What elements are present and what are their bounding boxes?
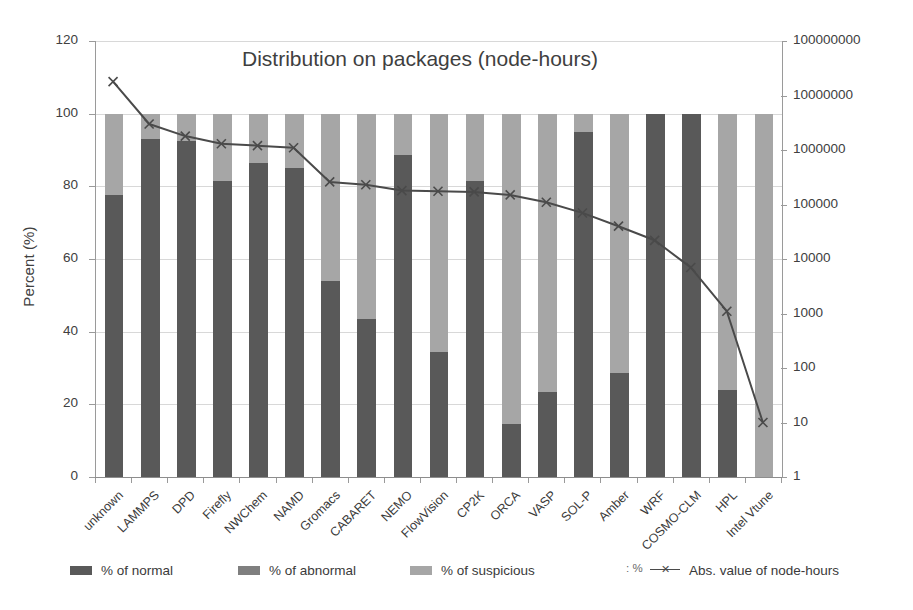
bar-segment[interactable]	[646, 114, 665, 477]
bar-segment[interactable]	[105, 114, 124, 196]
bar-segment[interactable]	[574, 132, 593, 477]
bar-segment[interactable]	[249, 114, 268, 163]
bar-segment[interactable]	[394, 155, 413, 477]
bar-segment[interactable]	[357, 319, 376, 477]
y-tick-label-left: 120	[28, 32, 78, 47]
bar-segment[interactable]	[755, 114, 774, 477]
y-tick-label-right: 100	[793, 359, 883, 374]
bar-segment[interactable]	[574, 114, 593, 132]
legend-label: Abs. value of node-hours	[689, 563, 839, 578]
legend-label: % of suspicious	[441, 563, 535, 578]
bar-segment[interactable]	[538, 392, 557, 477]
y-tick-label-right: 10000000	[793, 87, 883, 102]
bar-segment[interactable]	[177, 141, 196, 477]
bar-segment[interactable]	[357, 114, 376, 319]
bar-segment[interactable]	[610, 373, 629, 477]
y-tick-label-left: 80	[28, 177, 78, 192]
y-tick-label-right: 1000	[793, 305, 883, 320]
y-tick-label-right: 10000	[793, 250, 883, 265]
bar-group[interactable]	[394, 41, 413, 477]
bar-segment[interactable]	[718, 390, 737, 477]
bar-segment[interactable]	[466, 114, 485, 181]
chart-container: Distribution on packages (node-hours) Pe…	[0, 0, 913, 610]
legend-stray-label: : %	[626, 562, 643, 574]
bar-group[interactable]	[321, 41, 340, 477]
bar-group[interactable]	[718, 41, 737, 477]
legend-swatch	[70, 566, 92, 575]
legend-item[interactable]: ✕Abs. value of node-hours	[650, 560, 839, 580]
legend-swatch	[410, 566, 432, 575]
bar-segment[interactable]	[466, 181, 485, 477]
bar-segment[interactable]	[610, 114, 629, 374]
plot-inner	[96, 41, 782, 477]
legend-item[interactable]: % of suspicious	[410, 560, 535, 580]
bar-group[interactable]	[646, 41, 665, 477]
legend-item[interactable]: % of normal	[70, 560, 173, 580]
y-tick-label-right: 1	[793, 468, 883, 483]
bar-group[interactable]	[285, 41, 304, 477]
bar-segment[interactable]	[249, 163, 268, 477]
bar-group[interactable]	[502, 41, 521, 477]
bar-group[interactable]	[538, 41, 557, 477]
bar-segment[interactable]	[394, 114, 413, 156]
y-tick-label-right: 100000000	[793, 32, 883, 47]
y-tick-label-left: 60	[28, 250, 78, 265]
bar-segment[interactable]	[105, 195, 124, 477]
legend-label: % of abnormal	[269, 563, 356, 578]
bar-segment[interactable]	[321, 281, 340, 477]
y-tick-label-right: 100000	[793, 196, 883, 211]
bar-segment[interactable]	[285, 114, 304, 169]
bar-segment[interactable]	[682, 114, 701, 477]
bar-segment[interactable]	[141, 114, 160, 139]
bar-segment[interactable]	[502, 424, 521, 477]
legend-swatch	[238, 566, 260, 575]
y-tick-label-right: 1000000	[793, 141, 883, 156]
x-axis-line	[95, 477, 782, 478]
bar-group[interactable]	[466, 41, 485, 477]
legend-item[interactable]: % of abnormal	[238, 560, 356, 580]
bar-segment[interactable]	[538, 114, 557, 392]
bar-group[interactable]	[141, 41, 160, 477]
y-tick-label-left: 100	[28, 105, 78, 120]
y-tick-label-left: 20	[28, 395, 78, 410]
legend-label: % of normal	[101, 563, 173, 578]
bar-group[interactable]	[213, 41, 232, 477]
bar-segment[interactable]	[430, 114, 449, 352]
bar-group[interactable]	[574, 41, 593, 477]
bar-group[interactable]	[682, 41, 701, 477]
y-tick-label-left: 40	[28, 323, 78, 338]
bar-segment[interactable]	[141, 139, 160, 477]
bar-segment[interactable]	[718, 114, 737, 390]
bar-group[interactable]	[357, 41, 376, 477]
bar-group[interactable]	[249, 41, 268, 477]
bar-segment[interactable]	[321, 114, 340, 281]
plot-area	[95, 41, 783, 477]
y-tick-label-left: 0	[28, 468, 78, 483]
bar-group[interactable]	[105, 41, 124, 477]
bar-group[interactable]	[610, 41, 629, 477]
y-tick-label-right: 10	[793, 414, 883, 429]
bar-segment[interactable]	[285, 168, 304, 477]
bar-segment[interactable]	[177, 114, 196, 141]
bar-segment[interactable]	[213, 181, 232, 477]
bar-group[interactable]	[755, 41, 774, 477]
chart-legend: : % % of normal% of abnormal% of suspici…	[70, 560, 870, 582]
bar-segment[interactable]	[502, 114, 521, 425]
legend-line-marker-icon: ✕	[650, 564, 680, 576]
bar-segment[interactable]	[430, 352, 449, 477]
bar-group[interactable]	[430, 41, 449, 477]
bar-group[interactable]	[177, 41, 196, 477]
bar-segment[interactable]	[213, 114, 232, 181]
